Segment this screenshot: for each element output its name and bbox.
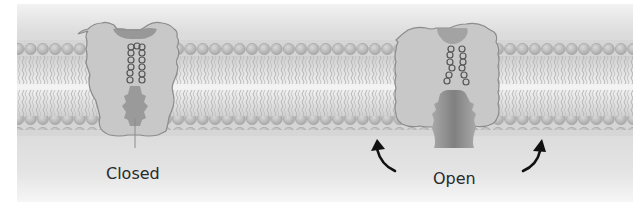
closed-label: Closed [106,164,160,183]
diagram-canvas [0,0,641,212]
membrane-channel-diagram: Closed Open [0,0,641,212]
open-label: Open [433,169,476,188]
